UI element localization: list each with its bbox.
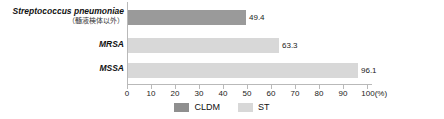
category-label-text: MRSA xyxy=(99,39,124,49)
bar-mrsa xyxy=(128,38,279,53)
x-axis-ticks: 0 10 20 30 40 50 60 70 80 90 100(%) xyxy=(127,85,444,101)
legend-swatch-cldm-icon xyxy=(174,103,189,112)
legend-swatch-st-icon xyxy=(238,103,253,112)
category-label-mrsa: MRSA xyxy=(0,39,124,49)
bar-value-mssa: 96.1 xyxy=(361,63,377,78)
legend-item-st: ST xyxy=(238,102,270,112)
legend-label-cldm: CLDM xyxy=(194,102,220,112)
legend-item-cldm: CLDM xyxy=(174,102,220,112)
x-tick-label-0: 0 xyxy=(125,89,129,99)
category-label-text: MSSA xyxy=(99,63,124,73)
x-tick-label-80: 80 xyxy=(315,89,324,99)
x-tick-label-10: 10 xyxy=(147,89,156,99)
bar-streptococcus-pneumoniae xyxy=(128,10,246,25)
bar-value-streptococcus-pneumoniae: 49.4 xyxy=(249,10,265,25)
bar-chart: Streptococcus pneumoniae （髄液検体以外） MRSA M… xyxy=(0,0,444,119)
category-label-mssa: MSSA xyxy=(0,63,124,73)
x-tick-label-40: 40 xyxy=(219,89,228,99)
plot-area: 49.4 63.3 96.1 xyxy=(127,0,444,86)
x-tick-label-20: 20 xyxy=(171,89,180,99)
chart-legend: CLDM ST xyxy=(0,100,444,114)
category-axis-labels: Streptococcus pneumoniae （髄液検体以外） MRSA M… xyxy=(0,0,124,82)
x-tick-label-30: 30 xyxy=(195,89,204,99)
category-sublabel-text: （髄液検体以外） xyxy=(0,16,124,25)
x-tick-label-50: 50 xyxy=(243,89,252,99)
bar-value-mrsa: 63.3 xyxy=(282,38,298,53)
category-label-streptococcus-pneumoniae: Streptococcus pneumoniae （髄液検体以外） xyxy=(0,6,124,25)
x-tick-label-100: 100(%) xyxy=(361,89,387,99)
x-tick-label-90: 90 xyxy=(339,89,348,99)
category-label-text: Streptococcus pneumoniae xyxy=(13,6,124,16)
x-tick-label-60: 60 xyxy=(267,89,276,99)
legend-label-st: ST xyxy=(258,102,270,112)
bar-mssa xyxy=(128,63,358,78)
x-tick-label-70: 70 xyxy=(291,89,300,99)
